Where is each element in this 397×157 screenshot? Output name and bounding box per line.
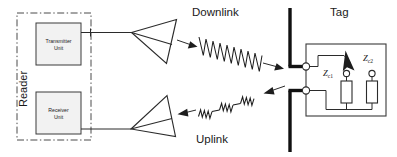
tag-terminal-lower — [302, 87, 309, 94]
tag-terminal-upper — [302, 63, 309, 70]
impedance-2-terminal — [369, 70, 375, 76]
receiver-unit-label-line1: Receiver — [48, 107, 69, 113]
uplink-from-tag-arrow-shaft — [272, 86, 285, 91]
downlink-to-tag-arrow-shaft — [263, 63, 276, 67]
tag-upper-wire-to-switch — [310, 56, 344, 67]
impedance-2-label: Zc2 — [363, 53, 373, 64]
impedance-1-element — [341, 81, 352, 103]
switch-arm-pointer — [343, 51, 355, 72]
receiver-unit-label-line2: Unit — [54, 114, 64, 120]
rfid-backscatter-diagram: Reader Transmitter Unit Receiver Unit Do… — [0, 0, 397, 157]
horn-antenna-transmit — [132, 20, 177, 64]
impedance-2-element — [367, 81, 378, 103]
uplink-label: Uplink — [196, 133, 228, 145]
uplink-modulated-wave-burst-2 — [220, 103, 234, 112]
uplink-modulated-wave-burst-3 — [241, 97, 255, 106]
downlink-label: Downlink — [192, 6, 239, 18]
impedance-1-terminal — [343, 70, 349, 76]
impedance-1-label: Zc1 — [323, 68, 333, 79]
horn-antenna-receive — [131, 96, 176, 137]
tag-label: Tag — [330, 6, 349, 18]
reader-label: Reader — [17, 71, 29, 107]
diagram-canvas: Reader Transmitter Unit Receiver Unit Do… — [0, 0, 397, 157]
uplink-gap-1 — [212, 110, 220, 112]
downlink-arrow-shaft — [177, 40, 190, 45]
transmitter-unit-label-line1: Transmitter — [45, 38, 71, 44]
downlink-carrier-wave — [199, 37, 262, 72]
uplink-to-reader-arrow-head — [178, 109, 189, 117]
uplink-gap-2 — [233, 104, 241, 106]
downlink-to-tag-arrow-head — [274, 63, 284, 70]
downlink-arrow-head — [188, 41, 198, 48]
transmitter-unit-label-line2: Unit — [54, 45, 64, 51]
uplink-modulated-wave-burst-1 — [199, 110, 213, 119]
uplink-from-tag-arrow-head — [264, 87, 275, 94]
